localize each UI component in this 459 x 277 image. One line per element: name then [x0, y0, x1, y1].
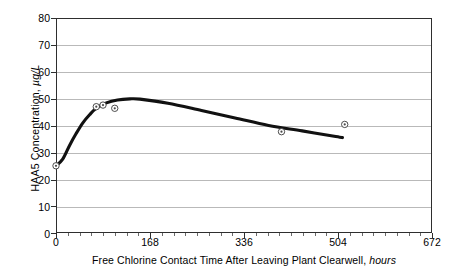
x-axis-tick-minor: [91, 233, 92, 236]
x-tick-label: 168: [120, 236, 180, 248]
x-axis-tick-minor: [303, 233, 304, 236]
y-tick-label: 40: [14, 121, 50, 131]
x-axis-title-unit: hours: [369, 254, 396, 266]
data-point-marker: [100, 102, 106, 108]
data-point-marker: [93, 103, 99, 109]
data-point-marker: [278, 128, 284, 134]
y-tick-label: 60: [14, 67, 50, 77]
y-tick-label: 20: [14, 175, 50, 185]
x-tick-label: 672: [402, 236, 459, 248]
y-tick-label: 70: [14, 40, 50, 50]
x-axis-tick-minor: [279, 233, 280, 236]
x-axis-tick-minor: [385, 233, 386, 236]
y-tick-label: 80: [14, 13, 50, 23]
x-axis-tick-minor: [115, 233, 116, 236]
data-point-marker: [53, 163, 59, 169]
data-point-markers: [53, 102, 348, 169]
x-tick-label: 336: [214, 236, 274, 248]
y-tick-label: 50: [14, 94, 50, 104]
data-point-marker: [112, 105, 118, 111]
y-tick-label: 10: [14, 202, 50, 212]
x-axis-tick-minor: [397, 233, 398, 236]
x-axis-tick-minor: [103, 233, 104, 236]
haa5-concentration-chart: HAA5 Concentration, µg/L 80 70 60 50 40 …: [0, 0, 459, 277]
x-axis-tick-minor: [373, 233, 374, 236]
x-axis-title: Free Chlorine Contact Time After Leaving…: [56, 254, 432, 266]
x-axis-title-main: Free Chlorine Contact Time After Leaving…: [92, 254, 366, 266]
x-tick-label: 0: [26, 236, 86, 248]
x-axis-tick-minor: [185, 233, 186, 236]
x-tick-label: 504: [308, 236, 368, 248]
x-axis-tick-minor: [291, 233, 292, 236]
x-axis-tick-minor: [197, 233, 198, 236]
y-tick-label: 30: [14, 148, 50, 158]
x-axis-tick-minor: [209, 233, 210, 236]
data-series-layer: [56, 18, 432, 233]
data-point-marker: [342, 121, 348, 127]
